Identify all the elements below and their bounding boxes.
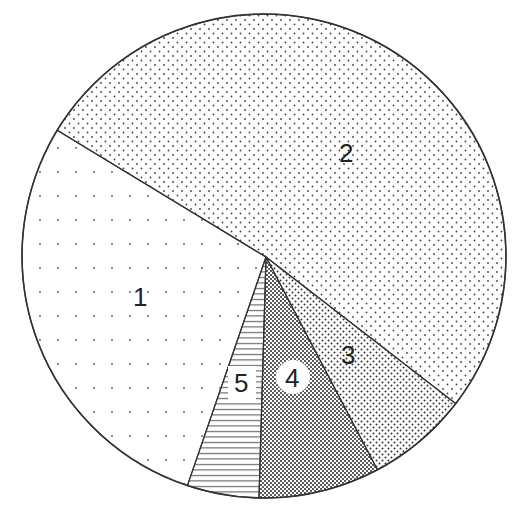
pie-chart: 1 2 3 4 5 (0, 0, 527, 508)
slice-label-4: 4 (285, 363, 299, 393)
pie-slices (22, 14, 506, 498)
slice-label-2: 2 (339, 138, 353, 168)
slice-label-5: 5 (234, 368, 248, 398)
slice-label-1: 1 (133, 282, 147, 312)
slice-label-3: 3 (341, 340, 355, 370)
